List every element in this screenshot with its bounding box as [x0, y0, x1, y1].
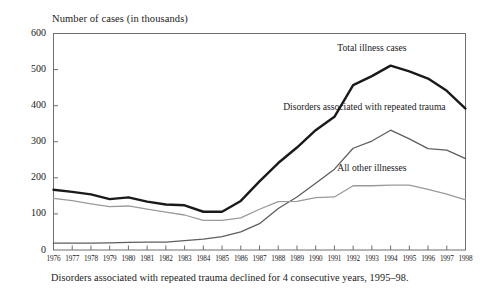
series-line [54, 130, 466, 243]
x-axis-tick-label: 1998 [451, 255, 481, 263]
y-axis-ticks [54, 70, 59, 214]
series-line [54, 185, 466, 220]
figure-caption: Disorders associated with repeated traum… [51, 272, 409, 283]
y-axis-tick-label: 100 [16, 208, 46, 218]
data-series-group [54, 66, 466, 244]
y-axis-tick-label: 400 [16, 100, 46, 110]
y-axis-tick-label: 300 [16, 136, 46, 146]
y-axis-tick-label: 500 [16, 64, 46, 74]
chart-figure: Number of cases (in thousands) 010020030… [0, 0, 502, 289]
y-axis-tick-label: 200 [16, 172, 46, 182]
series-label: Total illness cases [302, 42, 442, 53]
y-axis-tick-label: 0 [16, 245, 46, 255]
series-label: All other illnesses [302, 162, 442, 173]
y-axis-tick-label: 600 [16, 28, 46, 38]
series-label: Disorders associated with repeated traum… [283, 101, 423, 112]
series-line [54, 66, 466, 212]
plot-frame [54, 34, 466, 251]
x-axis-ticks [54, 246, 466, 251]
